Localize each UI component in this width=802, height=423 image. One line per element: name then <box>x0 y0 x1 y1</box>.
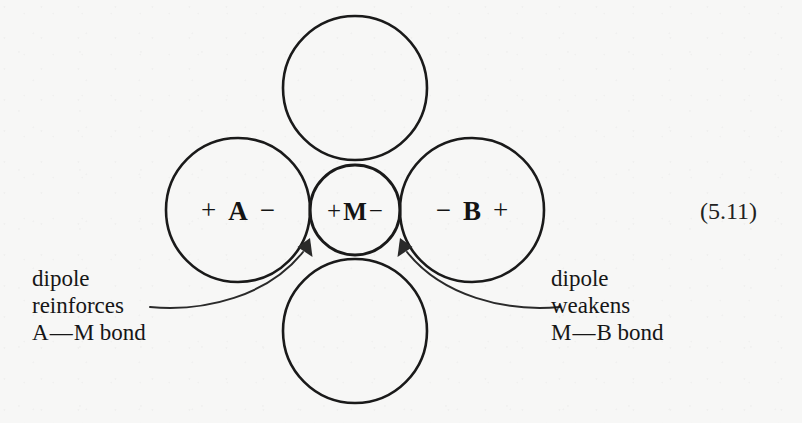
caption-left-bond-dash: — <box>49 320 74 345</box>
charge-sign-a-left: + <box>192 195 225 225</box>
caption-left-line2: reinforces <box>32 292 146 319</box>
caption-right-atom1: M <box>551 320 571 345</box>
caption-right-line3: M—B bond <box>551 319 664 346</box>
atom-symbol-a: A <box>225 196 251 226</box>
caption-left-atom1: A <box>32 320 49 345</box>
molecule-diagram <box>0 0 802 423</box>
caption-right: dipole weakens M—B bond <box>551 265 664 346</box>
atom-circle-top <box>283 16 427 160</box>
figure-canvas: +A− +M− −B+ dipole reinforces A—M bond d… <box>0 0 802 423</box>
caption-right-bond-dash: — <box>571 320 596 345</box>
caption-right-atom2: B bond <box>596 320 663 345</box>
charge-sign-m-left: + <box>326 197 342 224</box>
charge-sign-m-right: − <box>368 197 384 224</box>
atom-symbol-b: B <box>460 196 484 226</box>
caption-left: dipole reinforces A—M bond <box>32 265 146 346</box>
right-dipole-arrow <box>398 238 561 308</box>
equation-number: (5.11) <box>700 198 757 225</box>
caption-right-line1: dipole <box>551 265 664 292</box>
atom-label-b: −B+ <box>427 195 517 227</box>
caption-left-line3: A—M bond <box>32 319 146 346</box>
caption-left-line1: dipole <box>32 265 146 292</box>
atom-label-a: +A− <box>192 195 284 227</box>
atom-label-m: +M− <box>326 197 384 226</box>
caption-right-line2: weakens <box>551 292 664 319</box>
caption-left-atom2: M bond <box>74 320 146 345</box>
atom-circle-bottom <box>283 259 427 403</box>
charge-sign-b-right: + <box>484 195 517 225</box>
atom-symbol-m: M <box>342 198 368 225</box>
charge-sign-a-right: − <box>251 195 284 225</box>
left-dipole-arrow <box>150 238 313 308</box>
charge-sign-b-left: − <box>427 195 460 225</box>
